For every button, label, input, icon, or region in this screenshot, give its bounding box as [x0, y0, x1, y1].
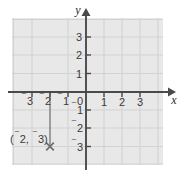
y-axis-tick-labels-negative: ⁻1 ⁻2 ⁻3 [71, 98, 83, 153]
y-axis-tick-labels-positive: 3 2 1 [76, 31, 82, 80]
tick-label-x-2: 2 [119, 96, 125, 108]
tick-digit: 1 [77, 104, 83, 116]
tick-label-y-1: 1 [76, 68, 82, 80]
tick-digit: 2 [45, 95, 51, 107]
y-axis-label: y [74, 3, 81, 17]
x-axis-label: x [170, 93, 177, 107]
paren-close: ) [44, 133, 48, 145]
tick-digit: 1 [63, 95, 69, 107]
coordinate-plane-graph: ⁻3 ⁻2 ⁻1 0 1 2 3 3 2 1 ⁻1 [0, 0, 186, 175]
graph-canvas: ⁻3 ⁻2 ⁻1 0 1 2 3 3 2 1 ⁻1 [0, 0, 186, 175]
tick-digit: 3 [77, 141, 83, 153]
tick-label-x-1: 1 [101, 96, 107, 108]
tick-label-y-2: 2 [76, 49, 82, 61]
tick-label-x-3: 3 [137, 96, 143, 108]
tick-label-y-3: 3 [76, 31, 82, 43]
tick-digit: 3 [27, 95, 33, 107]
tick-digit: 2 [77, 122, 83, 134]
y-axis-arrowhead-icon [82, 8, 91, 16]
